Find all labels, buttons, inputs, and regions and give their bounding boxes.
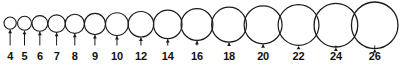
arrow-head-icon	[93, 35, 97, 38]
circle-marker-14: 14	[153, 10, 182, 62]
arrow-head-icon	[115, 36, 119, 39]
circle-size-label: 9	[92, 50, 98, 62]
circle-size-label: 10	[111, 50, 123, 62]
arrow-head-icon	[139, 37, 143, 40]
circle-marker-26: 26	[351, 2, 398, 62]
arrow-head-icon	[166, 39, 170, 42]
arrow-head-icon	[261, 44, 265, 47]
circle-marker-18: 18	[212, 7, 247, 62]
circle-marker-6: 6	[32, 16, 48, 62]
circle-marker-8: 8	[65, 14, 84, 62]
circle-size-label: 26	[369, 50, 381, 62]
circle-marker-10: 10	[106, 13, 129, 62]
arrow-head-icon	[195, 41, 199, 44]
circle-outline	[84, 13, 105, 34]
circle-size-label: 6	[37, 50, 43, 62]
circle-outline	[153, 10, 182, 39]
circle-size-label: 12	[135, 50, 147, 62]
circle-outline	[106, 13, 129, 36]
arrow-head-icon	[8, 30, 12, 33]
circle-marker-5: 5	[18, 16, 32, 62]
circle-outline	[181, 9, 213, 41]
circle-series-svg: 456789101214161820222426	[0, 0, 402, 66]
circle-marker-9: 9	[84, 13, 105, 62]
arrow-head-icon	[227, 43, 231, 46]
circle-size-chart: 456789101214161820222426	[0, 0, 402, 66]
circle-marker-16: 16	[181, 9, 213, 62]
circle-marker-4: 4	[4, 17, 16, 62]
circle-outline	[32, 16, 48, 32]
arrow-head-icon	[297, 46, 301, 49]
arrow-head-icon	[73, 34, 77, 37]
circle-outline	[65, 14, 84, 33]
circle-outline	[212, 7, 247, 42]
circle-marker-20: 20	[244, 6, 282, 62]
circle-marker-12: 12	[128, 12, 153, 63]
circle-size-label: 14	[162, 50, 175, 62]
circle-outline	[18, 16, 32, 30]
circle-size-label: 4	[7, 50, 14, 62]
circle-outline	[128, 12, 153, 37]
circle-size-label: 8	[72, 50, 78, 62]
arrow-head-icon	[55, 33, 59, 36]
circle-outline	[4, 17, 16, 29]
circle-size-label: 16	[191, 50, 203, 62]
circle-outline	[278, 5, 319, 46]
circle-size-label: 18	[223, 50, 235, 62]
circle-marker-22: 22	[278, 5, 319, 62]
circle-size-label: 24	[330, 50, 343, 62]
circle-marker-7: 7	[48, 15, 65, 62]
circle-outline	[351, 2, 398, 49]
circle-outline	[244, 6, 282, 44]
circle-size-label: 5	[22, 50, 28, 62]
arrow-head-icon	[38, 32, 42, 35]
circle-size-label: 22	[293, 50, 305, 62]
circle-size-label: 7	[54, 50, 60, 62]
circle-outline	[48, 15, 65, 32]
circle-size-label: 20	[257, 50, 269, 62]
arrow-head-icon	[23, 31, 27, 34]
circle-marker-24: 24	[314, 3, 358, 62]
